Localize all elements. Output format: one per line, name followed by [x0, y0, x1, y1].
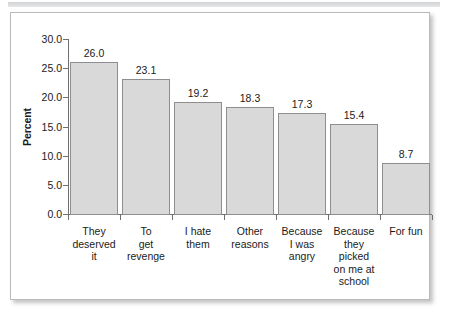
x-category-line: picked: [328, 250, 380, 263]
bar[interactable]: [70, 62, 118, 215]
plot-area: Percent 30.0 25.0 20.0 15.0 10.0 5.0 0.0: [11, 13, 431, 301]
x-category-line: Because: [328, 225, 380, 238]
bar-value-label: 8.7: [382, 149, 430, 160]
x-category-line: reasons: [224, 238, 276, 251]
x-category-label: Because they picked on me at school: [328, 225, 380, 288]
top-decorative-band: [8, 2, 440, 7]
x-category-line: angry: [276, 250, 328, 263]
x-category-line: To: [120, 225, 172, 238]
x-category-line: school: [328, 275, 380, 288]
bar[interactable]: [278, 113, 326, 215]
x-category-label: I hate them: [172, 225, 224, 250]
x-category-line: They: [68, 225, 120, 238]
bar-value-label: 17.3: [278, 99, 326, 110]
bar[interactable]: [226, 107, 274, 215]
bar-value-label: 15.4: [330, 110, 378, 121]
x-tick-mark: [432, 215, 433, 220]
x-category-line: deserved: [68, 238, 120, 251]
bar-value-label: 19.2: [174, 88, 222, 99]
bar[interactable]: [382, 163, 430, 215]
x-category-line: I was: [276, 238, 328, 251]
chart-figure-frame: Percent 30.0 25.0 20.0 15.0 10.0 5.0 0.0: [10, 12, 430, 300]
x-category-line: on me at: [328, 263, 380, 276]
x-category-line: Other: [224, 225, 276, 238]
x-category-line: revenge: [120, 250, 172, 263]
x-category-label: Because I was angry: [276, 225, 328, 263]
x-category-line: I hate: [172, 225, 224, 238]
x-category-line: For fun: [380, 225, 432, 238]
x-category-label: For fun: [380, 225, 432, 238]
bar[interactable]: [122, 79, 170, 215]
bar[interactable]: [330, 124, 378, 215]
x-category-label: To get revenge: [120, 225, 172, 263]
x-category-line: they: [328, 238, 380, 251]
bar[interactable]: [174, 102, 222, 215]
x-category-line: get: [120, 238, 172, 251]
bar-value-label: 26.0: [70, 48, 118, 59]
x-category-line: it: [68, 250, 120, 263]
x-category-label: Other reasons: [224, 225, 276, 250]
bar-value-label: 23.1: [122, 65, 170, 76]
x-category-label: They deserved it: [68, 225, 120, 263]
bar-value-label: 18.3: [226, 93, 274, 104]
x-category-line: them: [172, 238, 224, 251]
x-category-line: Because: [276, 225, 328, 238]
